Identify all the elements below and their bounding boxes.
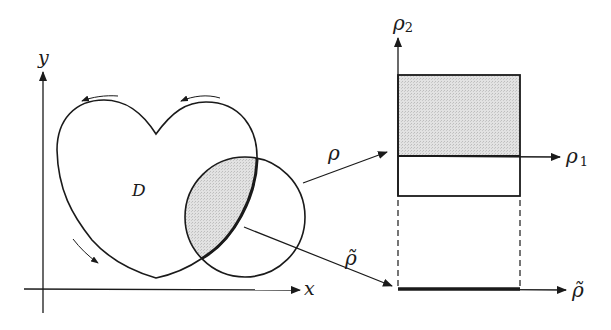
shaded-intersection xyxy=(57,100,257,278)
rho1-axis-label: ρ1 xyxy=(565,144,588,169)
map-label-rho-tilde: ρ̃ xyxy=(344,246,357,270)
region-label-D: D xyxy=(131,180,146,200)
y-axis-label: y xyxy=(37,46,49,68)
shaded-upper-rect xyxy=(398,75,520,156)
map-arrow-rho-tilde xyxy=(244,227,392,286)
diagram-canvas: y x D ρ ρ̃ ρ2 ρ1 ρ̃ xyxy=(0,0,611,330)
orientation-arrow-right-top xyxy=(181,96,220,101)
x-axis xyxy=(24,289,300,290)
map-label-rho: ρ xyxy=(327,141,340,165)
rho2-axis-label: ρ2 xyxy=(392,11,413,35)
right-panel xyxy=(398,38,566,290)
rho-tilde-axis-label: ρ̃ xyxy=(571,278,584,302)
map-arrow-rho xyxy=(303,152,387,183)
x-axis-label: x xyxy=(304,277,315,299)
